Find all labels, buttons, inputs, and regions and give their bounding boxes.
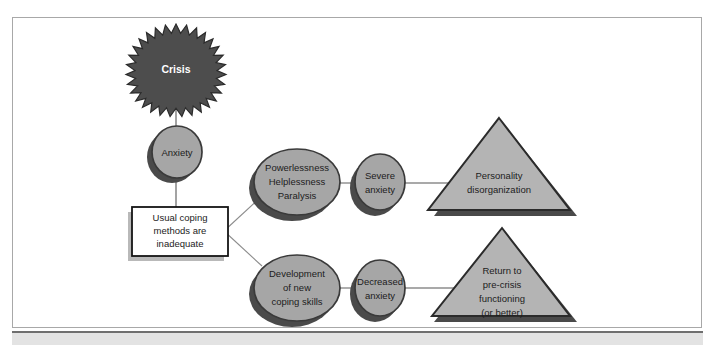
- node-coping-box-line-2: methods are: [154, 225, 207, 236]
- node-return-precrisis[interactable]: Return to pre-crisis functioning (or bet…: [432, 228, 577, 322]
- node-severe-anxiety[interactable]: Severe anxiety: [350, 154, 405, 216]
- node-development[interactable]: Development of new coping skills: [249, 255, 340, 327]
- node-anxiety-label: Anxiety: [161, 147, 192, 158]
- personality-disorganization-shape: [428, 118, 570, 210]
- node-coping-box-line-3: inadequate: [156, 238, 203, 249]
- node-coping-box[interactable]: Usual coping methods are inadequate: [128, 207, 228, 261]
- node-development-line-1: Development: [269, 268, 325, 279]
- node-coping-box-line-1: Usual coping: [153, 212, 208, 223]
- node-return-precrisis-line-1: Return to: [482, 265, 521, 276]
- node-decreased-anxiety[interactable]: Decreased anxiety: [350, 260, 405, 322]
- node-crisis-label: Crisis: [161, 63, 190, 75]
- node-powerlessness[interactable]: Powerlessness Helplessness Paralysis: [249, 149, 340, 221]
- node-severe-anxiety-line-2: anxiety: [365, 184, 395, 195]
- node-personality-disorganization-line-2: disorganization: [467, 184, 531, 195]
- node-return-precrisis-line-3: functioning: [479, 293, 525, 304]
- node-crisis[interactable]: Crisis: [126, 24, 226, 117]
- node-return-precrisis-line-4: (or better): [481, 307, 523, 318]
- node-development-line-2: of new: [283, 282, 311, 293]
- severe-anxiety-shape: [355, 154, 405, 210]
- node-powerlessness-line-1: Powerlessness: [265, 162, 329, 173]
- node-powerlessness-line-3: Paralysis: [278, 190, 317, 201]
- decreased-anxiety-shape: [355, 260, 405, 316]
- crisis-flow-diagram: Crisis Anxiety Usual coping methods are …: [0, 0, 718, 345]
- node-decreased-anxiety-line-1: Decreased: [357, 276, 403, 287]
- node-return-precrisis-line-2: pre-crisis: [483, 279, 522, 290]
- connector-coping-box-to-development: [224, 231, 262, 266]
- page-canvas: Crisis Anxiety Usual coping methods are …: [0, 0, 718, 345]
- node-decreased-anxiety-line-2: anxiety: [365, 290, 395, 301]
- node-personality-disorganization[interactable]: Personality disorganization: [428, 118, 577, 216]
- node-severe-anxiety-line-1: Severe: [365, 170, 395, 181]
- node-personality-disorganization-line-1: Personality: [476, 170, 523, 181]
- node-powerlessness-line-2: Helplessness: [269, 176, 326, 187]
- node-development-line-3: coping skills: [271, 296, 322, 307]
- node-anxiety[interactable]: Anxiety: [147, 126, 202, 183]
